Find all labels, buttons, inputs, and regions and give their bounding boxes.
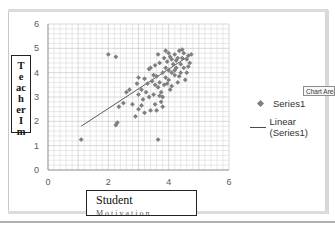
y-axis-title-letter: ac: [12, 82, 30, 93]
data-point[interactable]: [184, 70, 189, 75]
data-point[interactable]: [181, 65, 186, 70]
data-point[interactable]: [136, 107, 141, 112]
data-point[interactable]: [172, 52, 177, 57]
data-point[interactable]: [136, 92, 141, 97]
y-axis-title-letter: e: [12, 71, 30, 82]
data-point[interactable]: [79, 137, 84, 142]
data-point[interactable]: [160, 104, 165, 109]
data-point[interactable]: [130, 102, 135, 107]
y-axis-title-letter: m: [12, 126, 30, 137]
legend-item-trendline[interactable]: Linear (Series1): [250, 120, 335, 134]
data-point[interactable]: [175, 80, 180, 85]
data-point[interactable]: [106, 52, 111, 57]
diamond-marker-icon: [257, 99, 264, 106]
chart-area-tooltip: Chart Area: [303, 86, 335, 96]
y-axis-title-letter: er: [12, 104, 30, 115]
x-tick-label: 2: [106, 177, 111, 187]
line-marker-icon: [250, 127, 266, 128]
y-tick-label: 0: [34, 165, 39, 175]
legend-series-label: Series1: [273, 98, 305, 109]
legend-trendline-label: Linear (Series1): [270, 116, 335, 138]
x-tick-label: 4: [166, 177, 171, 187]
x-axis-title-line1: Student: [96, 194, 187, 207]
data-point[interactable]: [121, 101, 126, 106]
x-axis-title-line2: Motivation: [96, 207, 187, 216]
data-point[interactable]: [157, 80, 162, 85]
data-point[interactable]: [154, 108, 159, 113]
y-tick-label: 4: [34, 68, 39, 78]
data-point[interactable]: [142, 110, 147, 115]
data-point[interactable]: [151, 92, 156, 97]
y-tick-label: 5: [34, 43, 39, 53]
y-tick-label: 6: [34, 19, 39, 29]
x-axis-title[interactable]: Student Motivation: [86, 190, 197, 216]
y-axis-title-letter: h: [12, 93, 30, 104]
data-point[interactable]: [136, 75, 141, 80]
y-tick-label: 2: [34, 116, 39, 126]
y-axis-title[interactable]: TeacherIm: [11, 55, 31, 133]
data-point[interactable]: [142, 76, 147, 81]
y-axis-title-letter: I: [12, 115, 30, 126]
data-point[interactable]: [157, 61, 162, 66]
y-tick-label: 1: [34, 141, 39, 151]
data-point[interactable]: [139, 103, 144, 108]
legend-item-series1[interactable]: Series1: [250, 96, 335, 110]
x-tick-label: 0: [45, 177, 50, 187]
data-point[interactable]: [148, 108, 153, 113]
x-tick-label: 6: [226, 177, 231, 187]
y-axis-title-letter: T: [12, 60, 30, 71]
data-point[interactable]: [133, 114, 138, 119]
y-tick-label: 3: [34, 92, 39, 102]
legend[interactable]: Series1 Linear (Series1): [250, 96, 335, 144]
